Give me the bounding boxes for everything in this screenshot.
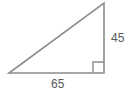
- right-angle-marker-icon: [93, 62, 104, 73]
- triangle-outline: [9, 3, 104, 73]
- vertical-leg-length-label: 45: [111, 32, 125, 44]
- horizontal-leg-length-label: 65: [51, 78, 65, 90]
- triangle-graphic: [0, 0, 133, 93]
- right-triangle-figure: 45 65: [0, 0, 133, 93]
